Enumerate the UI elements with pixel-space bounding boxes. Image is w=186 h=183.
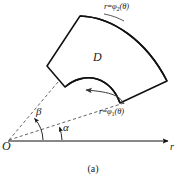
outer-curve-arg: (θ) xyxy=(120,1,130,11)
ray-beta-line xyxy=(9,82,58,140)
angle-label-alpha: α xyxy=(63,122,69,133)
angle-arc-alpha xyxy=(60,127,62,140)
leader-outer-label xyxy=(104,14,124,21)
outer-boundary-curve xyxy=(80,16,167,81)
pointer-inner-path xyxy=(86,90,124,104)
figure-caption: (a) xyxy=(0,163,186,174)
polar-region-diagram xyxy=(0,0,186,183)
axis-label-r: r xyxy=(170,142,174,152)
region-D-shape xyxy=(47,16,167,103)
figure-container: r=φ2(θ) r=φ1(θ) D β α O r (a) xyxy=(0,0,186,183)
origin-label: O xyxy=(2,140,11,152)
angle-arc-alpha-path xyxy=(60,127,62,140)
pointer-inner-label xyxy=(86,90,124,104)
outer-boundary-path xyxy=(80,16,167,81)
leader-outer-path xyxy=(104,14,124,21)
region-D-outline xyxy=(47,16,167,103)
outer-curve-label: r=φ2(θ) xyxy=(104,2,129,12)
angle-label-beta: β xyxy=(36,106,41,117)
ray-beta xyxy=(9,82,58,140)
region-label-D: D xyxy=(93,51,102,63)
inner-curve-arg: (θ) xyxy=(115,106,125,116)
inner-curve-label: r=φ1(θ) xyxy=(99,107,124,117)
